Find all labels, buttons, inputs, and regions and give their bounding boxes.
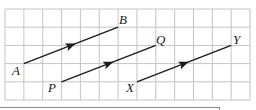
label-x: X bbox=[125, 80, 135, 95]
label-p: P bbox=[47, 80, 56, 95]
vector-grid-diagram: A B P Q X Y bbox=[0, 0, 256, 110]
label-b: B bbox=[119, 12, 127, 27]
label-y: Y bbox=[233, 32, 242, 47]
label-a: A bbox=[11, 63, 20, 78]
answer-box bbox=[0, 107, 220, 110]
label-q: Q bbox=[156, 32, 166, 47]
